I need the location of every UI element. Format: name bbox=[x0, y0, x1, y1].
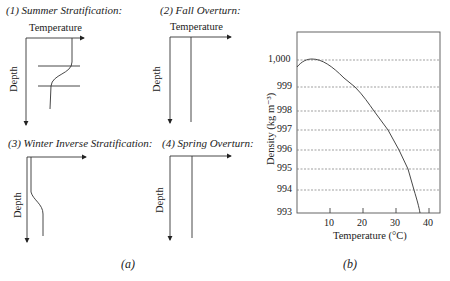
x-tick-40: 40 bbox=[423, 217, 433, 228]
x-tick-10: 10 bbox=[324, 217, 334, 228]
subpanel-3-axes bbox=[27, 157, 86, 242]
y-tick-993: 993 bbox=[277, 206, 292, 217]
y-tick-997: 997 bbox=[277, 123, 292, 134]
y-axis-label: Density (kg m⁻³) bbox=[264, 93, 276, 165]
subpanel-4-axes bbox=[170, 156, 231, 240]
x-ticks bbox=[330, 208, 429, 213]
y-tick-994: 994 bbox=[277, 183, 292, 194]
y-tick-995: 995 bbox=[277, 162, 292, 173]
panel-a-label: (a) bbox=[121, 257, 135, 272]
panel-b-label: (b) bbox=[343, 257, 357, 272]
density-chart bbox=[297, 32, 440, 213]
x-tick-30: 30 bbox=[390, 217, 400, 228]
y-tick-1000: 1,000 bbox=[268, 53, 291, 64]
x-axis-label: Temperature (°C) bbox=[333, 230, 407, 241]
y-tick-999: 999 bbox=[277, 80, 292, 91]
gridlines bbox=[297, 60, 440, 190]
y-tick-998: 998 bbox=[277, 104, 292, 115]
subpanel-1-axes bbox=[26, 38, 84, 125]
subpanel-2-axes bbox=[170, 37, 231, 123]
x-tick-20: 20 bbox=[357, 217, 367, 228]
y-tick-996: 996 bbox=[277, 143, 292, 154]
